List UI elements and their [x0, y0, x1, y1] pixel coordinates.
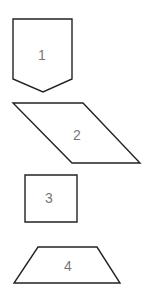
shape-3-label: 3 [45, 190, 53, 206]
shape-2-label: 2 [73, 127, 81, 143]
shape-2-parallelogram: 2 [13, 103, 140, 163]
shapes-diagram: 1 2 3 4 [0, 0, 152, 302]
shape-3-square: 3 [25, 175, 77, 222]
shape-4-label: 4 [64, 258, 72, 274]
shape-4-trapezoid: 4 [14, 247, 120, 283]
shape-1-pentagon: 1 [13, 19, 72, 92]
shape-1-label: 1 [38, 47, 46, 63]
